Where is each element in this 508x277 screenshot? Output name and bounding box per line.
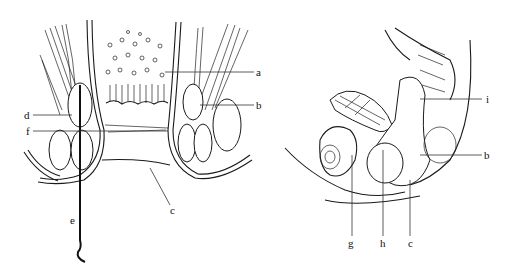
label-h: h <box>380 237 386 249</box>
label-b-left: b <box>256 99 262 111</box>
right-panel-sagittal-section <box>285 28 482 236</box>
label-b-right: b <box>484 149 490 161</box>
label-a: a <box>256 66 261 78</box>
anatomy-figure: a b d f c e i b g h c <box>0 0 508 277</box>
internal-sphincter-right <box>183 84 203 120</box>
label-c-left: c <box>170 204 175 216</box>
uterus <box>330 91 392 132</box>
left-panel-coronal-section <box>24 20 254 262</box>
label-f: f <box>26 125 30 137</box>
label-g: g <box>348 237 354 249</box>
label-d: d <box>24 109 30 121</box>
speckled-mucosa <box>106 31 164 78</box>
label-e: e <box>70 214 75 226</box>
label-i: i <box>486 93 489 105</box>
label-c-right: c <box>408 237 413 249</box>
